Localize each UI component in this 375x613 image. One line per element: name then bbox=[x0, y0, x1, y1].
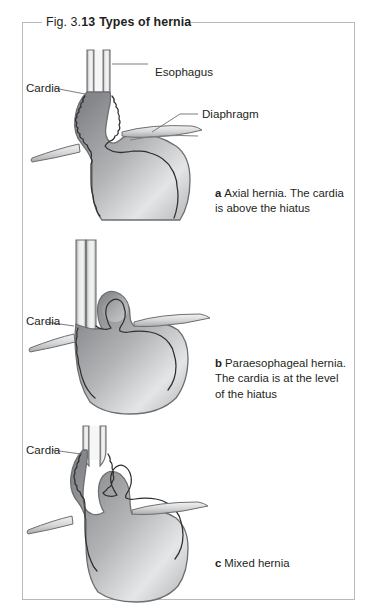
label-cardia: Cardia bbox=[26, 81, 60, 95]
label-cardia: Cardia bbox=[26, 314, 60, 328]
figure-title-prefix: Fig. 3. bbox=[46, 15, 81, 29]
caption-marker-c: c bbox=[215, 557, 221, 569]
label-cardia: Cardia bbox=[26, 443, 60, 457]
caption-text-b: Paraesophageal hernia. The cardia is at … bbox=[215, 357, 346, 400]
figure-title: Fig. 3.13Types of hernia bbox=[46, 13, 191, 31]
illustration-paraesophageal-hernia bbox=[30, 238, 210, 418]
figure-title-name: Types of hernia bbox=[99, 15, 191, 29]
panel-mixed-hernia: Cardia bbox=[0, 424, 375, 602]
caption-mixed-hernia: cMixed hernia bbox=[215, 556, 349, 571]
caption-marker-a: a bbox=[215, 187, 221, 199]
caption-paraesophageal-hernia: bParaesophageal hernia. The cardia is at… bbox=[215, 356, 349, 402]
caption-text-a: Axial hernia. The cardia is above the hi… bbox=[215, 187, 344, 214]
caption-axial-hernia: aAxial hernia. The cardia is above the h… bbox=[215, 186, 349, 217]
label-esophagus: Esophagus bbox=[155, 65, 213, 79]
figure-title-number: 13 bbox=[81, 15, 95, 29]
frame-top-left-segment bbox=[22, 22, 42, 23]
caption-text-c: Mixed hernia bbox=[224, 557, 289, 569]
caption-marker-b: b bbox=[215, 357, 222, 369]
frame-top-right-segment bbox=[185, 22, 355, 23]
label-diaphragm: Diaphragm bbox=[202, 107, 259, 121]
